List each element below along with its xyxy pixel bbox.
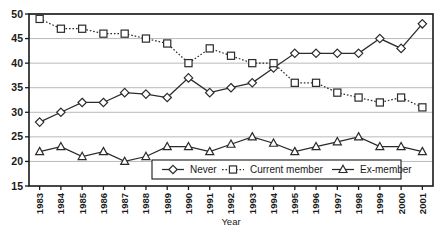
data-point-diamond — [227, 84, 235, 92]
y-axis: 1520253035404550 — [11, 8, 29, 192]
data-point-diamond — [312, 49, 320, 57]
x-tick-label: 1991 — [204, 192, 215, 214]
x-tick-label: 1983 — [34, 193, 45, 214]
series-layer — [35, 15, 426, 164]
data-point-diamond — [291, 49, 299, 57]
x-tick-label: 1994 — [268, 192, 279, 214]
data-point-square — [312, 79, 319, 86]
data-point-square — [36, 15, 43, 22]
data-point-square — [100, 30, 107, 37]
x-tick-label: 2000 — [396, 193, 407, 214]
y-tick-label: 20 — [11, 155, 23, 167]
y-tick-label: 25 — [11, 130, 23, 142]
y-tick-label: 30 — [11, 106, 23, 118]
data-point-diamond — [248, 79, 256, 87]
x-tick-label: 1995 — [289, 192, 300, 214]
chart-canvas: 1520253035404550 19831984198519861987198… — [0, 0, 442, 232]
data-point-square — [376, 99, 383, 106]
x-tick-label: 1997 — [332, 193, 343, 214]
data-point-square — [142, 35, 149, 42]
data-point-square — [355, 94, 362, 101]
data-point-square — [334, 89, 341, 96]
x-tick-label: 1984 — [55, 192, 66, 214]
data-point-square — [164, 40, 171, 47]
y-tick-label: 35 — [11, 81, 23, 93]
data-point-square — [270, 60, 277, 67]
x-tick-label: 1985 — [77, 192, 88, 214]
x-axis-title: Year — [221, 216, 240, 227]
x-tick-label: 1987 — [119, 193, 130, 214]
x-tick-label: 1988 — [140, 193, 151, 214]
data-point-triangle — [57, 142, 65, 149]
data-point-square — [57, 25, 64, 32]
data-point-triangle — [99, 147, 107, 154]
data-point-square — [121, 30, 128, 37]
x-tick-label: 1999 — [374, 193, 385, 214]
data-point-square — [79, 25, 86, 32]
data-point-diamond — [376, 34, 384, 42]
data-point-diamond — [206, 88, 214, 96]
data-point-square — [249, 60, 256, 67]
data-point-square — [398, 94, 405, 101]
data-point-diamond — [354, 49, 362, 57]
x-tick-label: 2001 — [417, 192, 428, 214]
data-point-diamond — [120, 88, 128, 96]
data-point-diamond — [333, 49, 341, 57]
x-tick-label: 1998 — [353, 193, 364, 214]
x-tick-label: 1989 — [162, 193, 173, 214]
series-never — [35, 20, 426, 127]
data-point-square — [227, 52, 234, 59]
x-tick-label: 1986 — [98, 193, 109, 214]
y-tick-label: 15 — [11, 180, 23, 192]
chart-legend: NeverCurrent memberEx-member — [152, 160, 412, 179]
x-tick-label: 1992 — [225, 193, 236, 214]
y-tick-label: 40 — [11, 57, 23, 69]
data-point-diamond — [142, 90, 150, 98]
x-tick-label: 1990 — [183, 193, 194, 214]
data-point-square — [229, 166, 236, 173]
y-tick-label: 50 — [11, 8, 23, 20]
data-point-diamond — [99, 98, 107, 106]
data-point-square — [185, 60, 192, 67]
data-point-diamond — [35, 118, 43, 126]
legend-label: Ex-member — [360, 164, 412, 175]
data-point-diamond — [57, 108, 65, 116]
data-point-triangle — [248, 133, 256, 140]
legend-label: Never — [190, 164, 217, 175]
data-point-triangle — [142, 152, 150, 159]
legend-label: Current member — [250, 164, 323, 175]
data-point-square — [206, 45, 213, 52]
data-point-triangle — [355, 133, 363, 140]
line-chart: 1520253035404550 19831984198519861987198… — [0, 0, 442, 232]
data-point-square — [291, 79, 298, 86]
x-tick-label: 1993 — [247, 193, 258, 214]
data-point-diamond — [78, 98, 86, 106]
data-point-square — [419, 104, 426, 111]
x-tick-label: 1996 — [310, 193, 321, 214]
y-tick-label: 45 — [11, 32, 23, 44]
x-axis-tick-labels: 1983198419851986198719881989199019911992… — [34, 192, 428, 214]
